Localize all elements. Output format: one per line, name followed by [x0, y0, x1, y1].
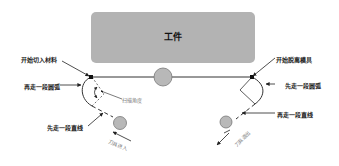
label-sweep-angle: 扫描角度 [122, 96, 142, 103]
tool-circle-entry [114, 117, 127, 130]
label-first-line-left: 先走一段直线 [47, 123, 83, 132]
label-start-cut-out: 开始脱离模具 [276, 55, 312, 64]
tool-circle-exit [220, 116, 232, 128]
toolpath-diagram: 工件 [0, 0, 339, 166]
label-start-cut-in: 开始切入材料 [21, 55, 57, 64]
exit-arc [252, 77, 263, 104]
entry-line [92, 106, 113, 117]
label-then-line-right: 再走一段直线 [277, 110, 313, 119]
exit-line [236, 104, 255, 119]
entry-arc [82, 77, 92, 106]
tool-circle-center [154, 68, 172, 86]
label-first-arc-right: 先走一段圆弧 [285, 81, 321, 90]
label-first-arc-left: 再走一段圆弧 [24, 82, 60, 91]
